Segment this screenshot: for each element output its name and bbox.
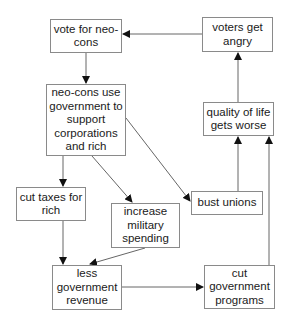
node-label: neo-cons use government to support corpo… <box>49 86 123 154</box>
edge-military-revenue <box>90 248 145 264</box>
node-label: less government revenue <box>55 267 119 308</box>
node-cut-government-programs: cut government programs <box>204 265 275 309</box>
node-less-government-revenue: less government revenue <box>52 265 122 310</box>
edge-neocons-unions <box>126 118 190 201</box>
node-voters-get-angry: voters get angry <box>202 17 273 52</box>
node-quality-of-life: quality of life gets worse <box>203 102 274 136</box>
node-bust-unions: bust unions <box>191 191 263 215</box>
node-label: voters get angry <box>205 21 270 48</box>
edge-neocons-military <box>92 156 132 202</box>
node-label: cut government programs <box>207 267 272 308</box>
node-vote-for-neo-cons: vote for neo-cons <box>50 19 122 53</box>
node-label: vote for neo-cons <box>53 23 119 50</box>
node-label: increase military spending <box>114 205 177 246</box>
node-label: cut taxes for rich <box>19 191 83 218</box>
node-neo-cons-use-government: neo-cons use government to support corpo… <box>46 84 126 156</box>
node-label: bust unions <box>198 196 257 210</box>
node-cut-taxes-for-rich: cut taxes for rich <box>16 187 86 221</box>
node-increase-military-spending: increase military spending <box>111 203 180 248</box>
node-label: quality of life gets worse <box>206 106 271 133</box>
